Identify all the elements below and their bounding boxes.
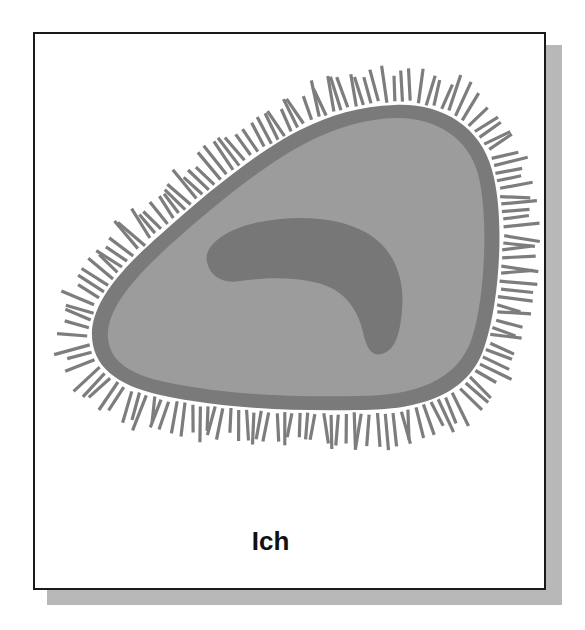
cilium <box>277 413 278 441</box>
cilium <box>230 408 231 433</box>
cilium <box>263 413 269 442</box>
cilium <box>67 352 91 358</box>
cilium <box>188 170 209 190</box>
cilium <box>123 391 132 422</box>
cilium <box>401 71 403 102</box>
cilium <box>364 77 371 103</box>
cilium <box>502 209 530 211</box>
cilium <box>502 256 536 258</box>
cilium <box>385 414 388 450</box>
cilium <box>217 408 223 439</box>
cilium <box>247 410 249 441</box>
cilium <box>382 66 387 103</box>
cilium <box>74 367 100 391</box>
cilium <box>498 297 533 302</box>
cilium <box>354 412 355 450</box>
cilium <box>500 281 538 284</box>
cilium <box>159 402 169 430</box>
cilium <box>200 406 201 442</box>
cilium <box>303 96 311 120</box>
cilium <box>495 168 522 173</box>
cilium <box>65 321 89 328</box>
cilium <box>324 413 329 443</box>
cilium <box>204 146 227 175</box>
cilium <box>394 76 395 102</box>
cilium <box>504 236 540 242</box>
figure-label: Ich <box>0 526 563 557</box>
cilium <box>367 415 369 447</box>
cilium <box>331 415 332 449</box>
cilium <box>480 122 501 137</box>
cilium <box>423 404 434 435</box>
cilium <box>500 197 530 198</box>
cilium <box>378 413 381 447</box>
cilium <box>65 360 94 371</box>
cilium <box>503 216 529 219</box>
cilium <box>469 108 488 126</box>
cilium <box>500 182 532 188</box>
cilium <box>504 223 540 227</box>
cilium <box>306 413 308 440</box>
cilium <box>181 403 185 437</box>
cilium <box>496 320 522 327</box>
cilium <box>490 334 521 338</box>
cilium <box>416 407 424 438</box>
cilium <box>492 152 519 158</box>
cilium <box>475 117 498 131</box>
cilium <box>460 389 482 410</box>
cilium <box>501 270 533 273</box>
cilium <box>497 176 521 181</box>
cilium <box>287 413 292 437</box>
cilium <box>299 413 300 437</box>
cilium <box>393 413 397 446</box>
cilium <box>497 312 531 314</box>
cilium <box>78 275 104 292</box>
cilium <box>253 413 254 445</box>
cilium <box>207 406 208 431</box>
cilium <box>310 414 315 440</box>
cilium <box>370 70 379 102</box>
cilium <box>57 334 87 336</box>
cilium <box>494 157 528 165</box>
cilium <box>256 411 261 439</box>
cilium <box>502 246 531 250</box>
cilium <box>171 401 177 433</box>
cilium <box>418 69 423 104</box>
cilium <box>475 371 496 383</box>
cilium <box>409 68 411 100</box>
cilium <box>434 80 440 106</box>
cilium <box>501 201 537 204</box>
cilium <box>198 152 221 179</box>
cilium <box>336 415 339 446</box>
cilium <box>501 289 533 292</box>
